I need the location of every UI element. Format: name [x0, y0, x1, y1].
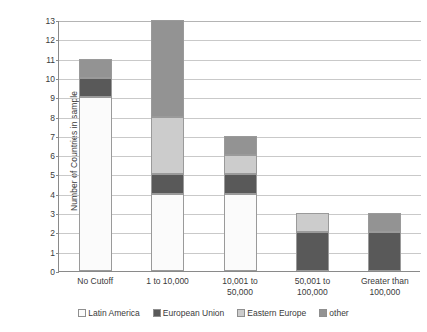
y-axis-tick-mark: [56, 272, 59, 273]
bar-segment[interactable]: [151, 174, 184, 193]
bar-segment[interactable]: [296, 232, 329, 271]
legend-item[interactable]: European Union: [153, 308, 224, 318]
x-axis-tick-label: No Cutoff: [57, 276, 133, 287]
plot-area: 012345678910111213No Cutoff1 to 10,00010…: [58, 21, 420, 272]
y-axis-tick-mark: [56, 156, 59, 157]
y-axis-tick-label: 10: [46, 74, 55, 84]
x-axis-tick-label: 10,001 to 50,000: [202, 276, 278, 297]
bar-segment[interactable]: [224, 136, 257, 155]
legend-swatch-icon: [237, 309, 245, 317]
y-axis-tick-mark: [56, 21, 59, 22]
x-axis-tick-label: 1 to 10,000: [130, 276, 206, 287]
y-axis-tick-mark: [56, 79, 59, 80]
legend-label: other: [329, 308, 348, 318]
y-axis-tick-label: 6: [50, 151, 55, 161]
bar-segment[interactable]: [368, 232, 401, 271]
bar-segment[interactable]: [151, 20, 184, 117]
bar-group[interactable]: [79, 20, 112, 271]
bar-segment[interactable]: [368, 213, 401, 232]
y-axis-tick-label: 7: [50, 132, 55, 142]
y-axis-tick-mark: [56, 195, 59, 196]
chart-legend: Latin AmericaEuropean UnionEastern Europ…: [0, 308, 427, 318]
y-axis-tick-label: 5: [50, 170, 55, 180]
bar-group[interactable]: [368, 20, 401, 271]
y-axis-tick-mark: [56, 118, 59, 119]
y-axis-tick-mark: [56, 40, 59, 41]
bar-group[interactable]: [151, 20, 184, 271]
legend-label: Eastern Europe: [247, 308, 306, 318]
bar-segment[interactable]: [79, 59, 112, 78]
bar-group[interactable]: [224, 20, 257, 271]
y-axis-tick-label: 12: [46, 35, 55, 45]
y-axis-tick-label: 8: [50, 113, 55, 123]
y-axis-tick-mark: [56, 60, 59, 61]
bar-segment[interactable]: [151, 194, 184, 271]
y-axis-tick-label: 9: [50, 93, 55, 103]
legend-label: European Union: [163, 308, 224, 318]
legend-item[interactable]: Eastern Europe: [237, 308, 306, 318]
y-axis-tick-mark: [56, 253, 59, 254]
y-axis-tick-label: 13: [46, 16, 55, 26]
y-axis-tick-label: 1: [50, 248, 55, 258]
y-axis-tick-label: 2: [50, 228, 55, 238]
y-axis-tick-label: 4: [50, 190, 55, 200]
bar-segment[interactable]: [224, 174, 257, 193]
bar-segment[interactable]: [79, 78, 112, 97]
y-axis-tick-label: 11: [46, 55, 55, 65]
bar-segment[interactable]: [224, 194, 257, 271]
legend-label: Latin America: [88, 308, 140, 318]
y-axis-tick-mark: [56, 233, 59, 234]
legend-swatch-icon: [78, 309, 86, 317]
y-axis-tick-mark: [56, 98, 59, 99]
legend-item[interactable]: other: [319, 308, 348, 318]
y-axis-tick-mark: [56, 175, 59, 176]
stacked-bar-chart: Number of Countries in sample 0123456789…: [0, 0, 427, 332]
y-axis-tick-mark: [56, 214, 59, 215]
legend-item[interactable]: Latin America: [78, 308, 140, 318]
legend-swatch-icon: [153, 309, 161, 317]
bar-segment[interactable]: [79, 97, 112, 271]
x-axis-tick-label: 50,001 to 100,000: [274, 276, 350, 297]
x-axis-tick-label: Greater than 100,000: [347, 276, 423, 297]
y-axis-tick-label: 3: [50, 209, 55, 219]
legend-swatch-icon: [319, 309, 327, 317]
y-axis-tick-mark: [56, 137, 59, 138]
bar-segment[interactable]: [296, 213, 329, 232]
y-axis-tick-label: 0: [50, 267, 55, 277]
bar-segment[interactable]: [151, 117, 184, 175]
bar-group[interactable]: [296, 20, 329, 271]
bar-segment[interactable]: [224, 155, 257, 174]
